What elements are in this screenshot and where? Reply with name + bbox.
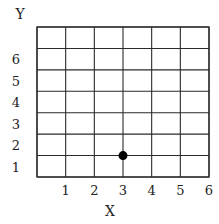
x-tick-label: 1: [62, 183, 70, 198]
x-tick-label: 3: [119, 183, 127, 198]
x-tick-label: 2: [90, 183, 98, 198]
y-tick-label: 4: [12, 95, 20, 110]
x-tick-label: 4: [148, 183, 156, 198]
coordinate-grid-chart: 123456 123456 X Y: [0, 0, 219, 224]
x-tick-label: 5: [176, 183, 184, 198]
y-axis-title: Y: [14, 6, 25, 22]
y-tick-label: 5: [12, 74, 20, 89]
x-tick-label: 6: [205, 183, 213, 198]
data-point: [119, 151, 128, 160]
y-tick-label: 1: [12, 160, 20, 175]
x-tick-labels: 123456: [62, 183, 214, 198]
y-tick-labels: 123456: [12, 52, 20, 174]
y-tick-label: 2: [12, 138, 20, 153]
data-points: [119, 151, 128, 160]
y-tick-label: 6: [12, 52, 20, 67]
x-axis-title: X: [105, 203, 115, 219]
y-tick-label: 3: [12, 117, 20, 132]
